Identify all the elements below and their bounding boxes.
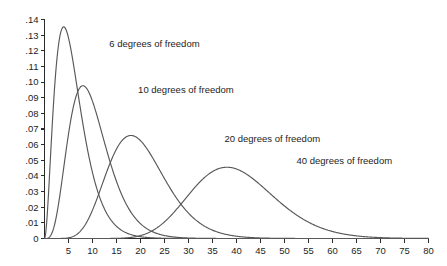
- series-label-6-df: 6 degrees of freedom: [109, 38, 199, 49]
- y-tick-label: .05: [25, 155, 38, 166]
- axis-lines: [45, 20, 429, 239]
- x-tick-label: 60: [327, 245, 338, 256]
- y-tick-label: 0: [33, 233, 38, 244]
- y-tick-label: .11: [26, 61, 39, 72]
- series-label-40-df: 40 degrees of freedom: [297, 155, 393, 166]
- x-tick-label: 15: [111, 245, 122, 256]
- x-tick-label: 20: [135, 245, 146, 256]
- x-tick-label: 80: [423, 245, 434, 256]
- x-tick-label: 5: [66, 245, 71, 256]
- chi-square-distribution-chart: 0.01.02.03.04.05.06.07.08.09.10.11.12.13…: [0, 0, 447, 266]
- x-tick-label: 75: [399, 245, 410, 256]
- x-tick-label: 10: [87, 245, 98, 256]
- x-tick-label: 65: [351, 245, 362, 256]
- curve-20-df: [45, 135, 429, 238]
- y-tick-label: .04: [25, 170, 38, 181]
- y-tick-label: .01: [25, 217, 38, 228]
- x-tick-label: 30: [183, 245, 194, 256]
- y-tick-label: .10: [25, 76, 38, 87]
- series-label-20-df: 20 degrees of freedom: [225, 133, 321, 144]
- x-tick-label: 50: [279, 245, 290, 256]
- x-tick-label: 40: [231, 245, 242, 256]
- y-tick-label: .03: [25, 186, 38, 197]
- series-label-10-df: 10 degrees of freedom: [138, 84, 234, 95]
- x-tick-label: 55: [303, 245, 314, 256]
- y-tick-label: .14: [25, 14, 38, 25]
- x-tick-label: 45: [255, 245, 266, 256]
- axes: [45, 20, 429, 239]
- x-axis-tick-labels: 5101520253035404550556065707580: [66, 245, 434, 256]
- x-tick-label: 25: [159, 245, 170, 256]
- y-tick-label: .13: [25, 30, 38, 41]
- x-tick-label: 70: [375, 245, 386, 256]
- y-tick-label: .07: [25, 123, 38, 134]
- y-tick-label: .08: [25, 108, 38, 119]
- y-tick-label: .06: [25, 139, 38, 150]
- plot-area: 0.01.02.03.04.05.06.07.08.09.10.11.12.13…: [0, 0, 447, 266]
- y-axis-tick-labels: 0.01.02.03.04.05.06.07.08.09.10.11.12.13…: [25, 14, 38, 244]
- x-tick-label: 35: [207, 245, 218, 256]
- tick-marks: [41, 20, 429, 243]
- y-tick-label: .09: [25, 92, 38, 103]
- series-annotations: 6 degrees of freedom10 degrees of freedo…: [109, 38, 392, 166]
- y-tick-label: .12: [25, 45, 38, 56]
- y-tick-label: .02: [25, 202, 38, 213]
